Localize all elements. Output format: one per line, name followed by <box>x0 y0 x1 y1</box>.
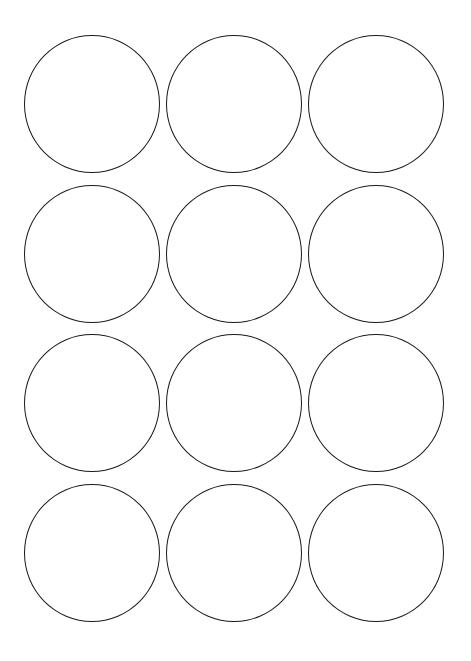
circle-label-r2-c3 <box>308 185 444 323</box>
circle-label-r4-c3 <box>308 484 444 622</box>
circle-label-r1-c2 <box>166 35 302 173</box>
circle-label-r3-c2 <box>166 334 302 472</box>
circle-label-r2-c2 <box>166 185 302 323</box>
circle-label-r3-c3 <box>308 334 444 472</box>
circle-label-r1-c3 <box>308 35 444 173</box>
circle-label-r4-c2 <box>166 484 302 622</box>
circle-label-r3-c1 <box>24 334 160 472</box>
label-sheet-page <box>0 0 471 661</box>
circle-label-r4-c1 <box>24 484 160 622</box>
circle-label-r2-c1 <box>24 185 160 323</box>
circle-label-r1-c1 <box>24 35 160 173</box>
